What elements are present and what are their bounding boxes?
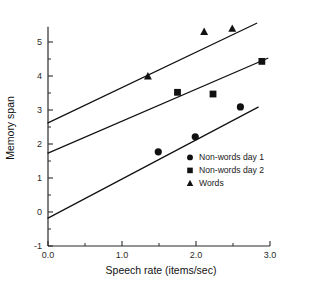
y-tick-label: 1 bbox=[37, 173, 42, 183]
data-point-square bbox=[210, 91, 217, 98]
x-axis-ticks: 0.01.02.03.0 bbox=[42, 241, 277, 260]
legend-marker-triangle bbox=[187, 180, 193, 186]
regression-lines bbox=[48, 23, 268, 218]
regression-line bbox=[48, 107, 258, 218]
x-tick-label: 1.0 bbox=[116, 250, 129, 260]
data-point-circle bbox=[155, 148, 162, 155]
data-point-triangle bbox=[200, 28, 208, 35]
scatter-plot: 0.01.02.03.0 -1012345 Non-words day 1Non… bbox=[0, 0, 318, 285]
y-axis-ticks: -1012345 bbox=[34, 37, 53, 251]
y-tick-label: 3 bbox=[37, 105, 42, 115]
axes bbox=[48, 27, 270, 246]
legend-label: Words bbox=[199, 178, 224, 188]
legend-label: Non-words day 2 bbox=[199, 165, 264, 175]
y-tick-label: -1 bbox=[34, 241, 42, 251]
regression-line bbox=[48, 58, 268, 153]
x-tick-label: 2.0 bbox=[190, 250, 203, 260]
chart-figure: 0.01.02.03.0 -1012345 Non-words day 1Non… bbox=[0, 0, 318, 285]
x-tick-label: 3.0 bbox=[264, 250, 277, 260]
data-point-square bbox=[174, 89, 181, 96]
x-axis-title: Speech rate (items/sec) bbox=[106, 264, 217, 276]
y-axis-title: Memory span bbox=[4, 96, 16, 160]
legend-label: Non-words day 1 bbox=[199, 152, 264, 162]
y-tick-label: 5 bbox=[37, 37, 42, 47]
y-tick-label: 2 bbox=[37, 139, 42, 149]
legend-marker-circle bbox=[187, 154, 193, 160]
y-tick-label: 0 bbox=[37, 207, 42, 217]
legend-marker-square bbox=[187, 168, 193, 174]
data-point-triangle bbox=[228, 24, 236, 31]
data-point-triangle bbox=[144, 72, 152, 79]
x-tick-label: 0.0 bbox=[42, 250, 55, 260]
data-point-square bbox=[258, 58, 265, 65]
y-tick-label: 4 bbox=[37, 71, 42, 81]
data-point-circle bbox=[192, 133, 199, 140]
data-point-circle bbox=[237, 103, 244, 110]
legend: Non-words day 1Non-words day 2Words bbox=[187, 152, 264, 188]
